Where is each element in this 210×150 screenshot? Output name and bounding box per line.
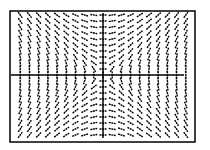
slope-segment xyxy=(18,18,22,24)
slope-segment xyxy=(47,84,48,91)
slope-segment xyxy=(81,116,87,119)
slope-segment xyxy=(73,109,79,113)
slope-segment xyxy=(55,102,59,108)
slope-segment xyxy=(82,43,88,47)
slope-segment xyxy=(72,31,78,35)
slope-segment xyxy=(64,109,69,114)
slope-segment xyxy=(165,120,169,126)
slope-segment xyxy=(147,30,152,35)
slope-segment xyxy=(18,24,22,30)
slope-segment xyxy=(185,42,187,49)
slope-segment xyxy=(73,37,79,41)
slope-segment xyxy=(29,54,31,61)
slope-segment xyxy=(157,90,159,97)
slope-segment xyxy=(38,66,39,73)
slope-segment xyxy=(63,121,69,125)
slope-segment xyxy=(54,121,59,126)
slope-segment xyxy=(72,121,78,124)
slope-segment xyxy=(54,13,60,17)
slope-segment xyxy=(128,121,134,124)
slope-segment xyxy=(56,90,59,97)
slope-segment xyxy=(176,54,178,61)
slope-segment xyxy=(90,20,97,21)
slope-segment xyxy=(128,31,134,35)
slope-segment xyxy=(82,55,87,60)
slope-segment xyxy=(19,102,21,109)
slope-segment xyxy=(128,25,134,28)
slope-segment xyxy=(54,133,60,137)
slope-segment xyxy=(185,84,186,91)
slope-segment xyxy=(184,114,187,120)
slope-segment xyxy=(147,102,151,108)
slope-segment xyxy=(64,96,68,102)
slope-segment xyxy=(36,18,41,23)
slope-segment xyxy=(54,127,59,132)
slope-segment xyxy=(184,108,187,114)
slope-segment xyxy=(90,38,97,40)
slope-segment xyxy=(185,90,186,97)
slope-segment xyxy=(90,104,97,106)
slope-segment xyxy=(175,102,178,108)
slope-segment xyxy=(109,44,116,46)
slope-segment xyxy=(147,48,150,54)
slope-segment xyxy=(165,18,170,23)
slope-segment xyxy=(184,132,188,138)
slope-segment xyxy=(20,78,21,85)
slope-segment xyxy=(19,30,22,36)
slope-segment xyxy=(90,122,97,123)
slope-segment xyxy=(29,60,30,67)
slope-segment xyxy=(138,102,142,107)
slope-segment xyxy=(109,32,116,34)
slope-segment xyxy=(127,134,133,137)
slope-segment xyxy=(158,66,159,73)
slope-segment xyxy=(129,60,132,66)
slope-segment xyxy=(184,18,188,24)
slope-segment xyxy=(167,78,168,85)
slope-segment xyxy=(55,48,58,54)
slope-segment xyxy=(166,36,169,42)
slope-segment xyxy=(82,97,88,101)
slope-segment xyxy=(46,108,50,114)
slope-segment xyxy=(81,109,87,112)
slope-segment xyxy=(46,24,51,29)
slope-segment xyxy=(119,60,123,66)
slope-segment xyxy=(149,78,150,85)
slope-segment xyxy=(81,122,88,125)
slope-segment xyxy=(63,19,69,23)
slope-segment xyxy=(28,114,31,120)
slope-segment xyxy=(38,84,39,91)
slope-segment xyxy=(46,102,49,108)
slope-segment xyxy=(84,66,86,73)
slope-segment xyxy=(156,36,160,42)
slope-segment xyxy=(186,78,187,85)
slope-segment xyxy=(81,37,87,40)
slope-segment xyxy=(166,42,169,48)
slope-segment xyxy=(45,127,50,132)
slope-segment xyxy=(130,66,131,73)
slope-segment xyxy=(45,133,50,138)
slope-segment xyxy=(54,19,59,24)
slope-segment xyxy=(109,104,116,106)
slope-segment xyxy=(63,127,69,131)
slope-segment xyxy=(147,96,150,102)
slope-segment xyxy=(92,66,96,72)
slope-segment xyxy=(156,24,161,29)
slope-segment xyxy=(184,24,188,30)
slope-segment xyxy=(175,36,178,42)
slope-segment xyxy=(91,50,98,53)
slope-segment xyxy=(156,19,161,24)
slope-segment xyxy=(166,96,168,103)
slope-segment xyxy=(27,126,31,132)
slope-segment xyxy=(176,96,178,103)
slope-segment xyxy=(91,98,98,101)
slope-segment xyxy=(90,134,97,135)
slope-segment xyxy=(37,102,40,108)
slope-segment xyxy=(157,42,160,48)
slope-segment xyxy=(148,84,150,91)
slope-segment xyxy=(120,66,122,73)
slope-segment xyxy=(137,19,143,23)
slope-segment xyxy=(65,54,68,60)
slope-segment xyxy=(137,133,143,137)
slope-segment xyxy=(128,115,134,119)
slope-segment xyxy=(130,78,131,85)
